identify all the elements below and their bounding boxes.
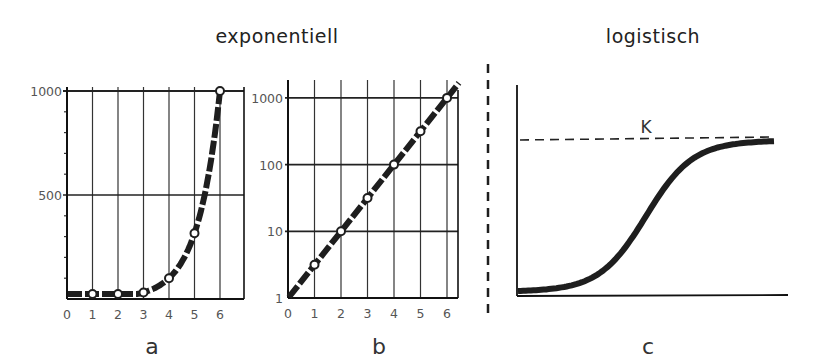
panel-label-a: a xyxy=(145,334,158,359)
x-tick-label: 0 xyxy=(284,306,292,321)
x-tick-label: 1 xyxy=(311,306,319,321)
title-logistic: logistisch xyxy=(606,25,700,47)
data-point-marker xyxy=(311,261,319,269)
y-tick-label: 500 xyxy=(38,188,62,203)
x-axis xyxy=(517,295,788,296)
panel-label-b: b xyxy=(372,334,386,359)
chart-c-logistic: Kc xyxy=(517,85,788,359)
x-tick-label: 6 xyxy=(216,307,224,322)
x-tick-label: 4 xyxy=(390,306,398,321)
data-point-marker xyxy=(390,161,398,169)
x-tick-label: 6 xyxy=(443,306,451,321)
y-tick-label: 100 xyxy=(259,158,283,173)
x-tick-label: 1 xyxy=(89,307,97,322)
data-point-marker xyxy=(89,290,97,298)
data-point-marker xyxy=(443,94,451,102)
logistic-s-curve xyxy=(518,141,774,291)
data-point-marker xyxy=(191,229,199,237)
x-tick-label: 5 xyxy=(417,306,425,321)
x-tick-label: 2 xyxy=(114,307,122,322)
x-tick-label: 5 xyxy=(191,307,199,322)
y-tick-label: 1000 xyxy=(251,91,283,106)
x-tick-label: 2 xyxy=(337,306,345,321)
chart-b-log-exponential: 01234561101001000b xyxy=(251,80,459,359)
y-tick-label: 1 xyxy=(275,291,283,306)
x-tick-label: 3 xyxy=(140,307,148,322)
data-point-marker xyxy=(364,194,372,202)
x-tick-label: 4 xyxy=(165,307,173,322)
data-point-marker xyxy=(417,127,425,135)
data-point-marker xyxy=(337,227,345,235)
data-point-marker xyxy=(165,274,173,282)
panel-label-c: c xyxy=(642,334,654,359)
y-tick-label: 1000 xyxy=(30,84,62,99)
data-point-marker xyxy=(140,288,148,296)
carrying-capacity-line xyxy=(520,137,774,140)
figure-exponential-vs-logistic: exponentiell logistisch 01234565001000a … xyxy=(0,0,819,364)
x-tick-label: 3 xyxy=(364,306,372,321)
chart-a-linear-exponential: 01234565001000a xyxy=(30,84,244,359)
y-tick-label: 10 xyxy=(267,224,283,239)
carrying-capacity-label: K xyxy=(640,117,652,137)
data-point-marker xyxy=(114,290,122,298)
title-exponential: exponentiell xyxy=(215,25,338,47)
data-point-marker xyxy=(216,87,224,95)
x-tick-label: 0 xyxy=(63,307,71,322)
